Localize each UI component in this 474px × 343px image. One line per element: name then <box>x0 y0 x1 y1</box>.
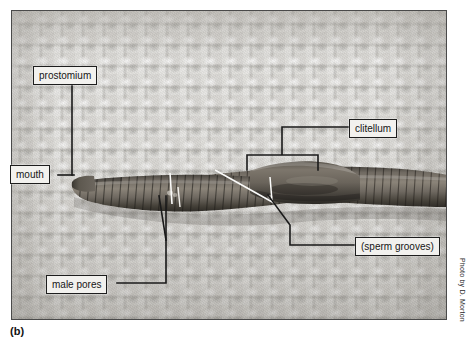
photo-credit: Photo by D. Morton <box>458 258 466 334</box>
male-pore-pointer-2 <box>178 187 180 207</box>
panel-letter: (b) <box>10 325 24 337</box>
figure-panel-b: prostomium mouth clitellum (sperm groove… <box>0 0 474 343</box>
sperm-groove-pointer-short <box>270 177 272 201</box>
pointer-hairlines <box>12 11 447 320</box>
label-clitellum: clitellum <box>349 119 397 138</box>
label-male-pores: male pores <box>46 275 107 294</box>
label-sperm-grooves: (sperm grooves) <box>355 237 440 256</box>
label-mouth: mouth <box>10 165 50 184</box>
male-pore-pointer-1 <box>170 173 172 204</box>
label-prostomium: prostomium <box>33 66 97 85</box>
photograph <box>11 10 447 320</box>
sperm-groove-pointer-long <box>215 170 274 203</box>
